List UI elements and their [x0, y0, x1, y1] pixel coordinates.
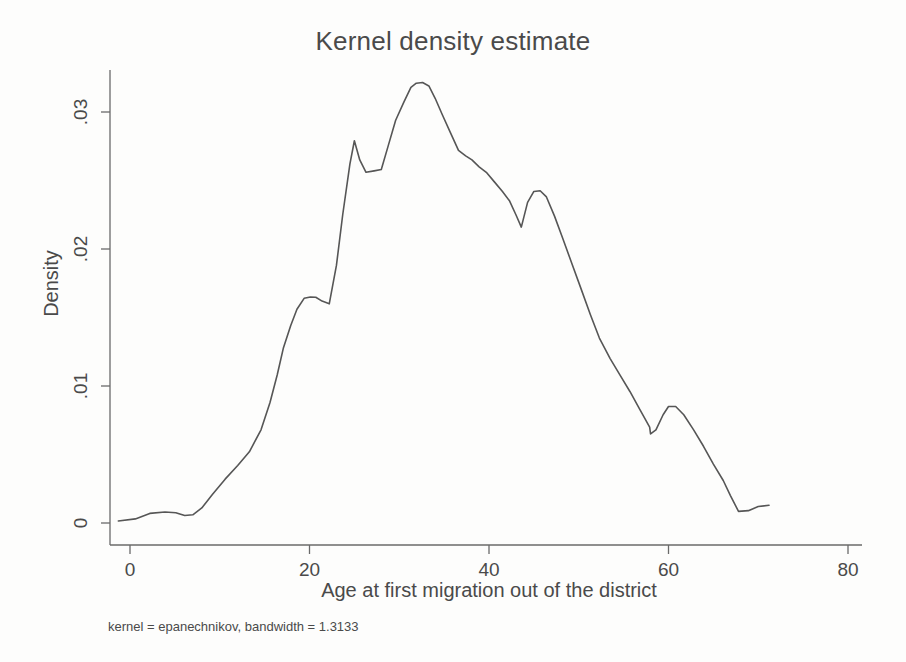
kernel-density-figure: Kernel density estimate Density 0.01.02.…	[0, 0, 906, 662]
y-tick-label: .02	[70, 236, 91, 262]
x-tick-group: 020406080	[125, 545, 859, 580]
x-tick-label: 80	[837, 559, 858, 580]
y-tick-label: 0	[70, 518, 91, 529]
x-tick-label: 40	[478, 559, 499, 580]
y-tick-label: .03	[70, 99, 91, 125]
y-tick-label: .01	[70, 373, 91, 399]
plot-area: 0.01.02.03 020406080	[0, 0, 906, 662]
x-tick-label: 0	[125, 559, 136, 580]
x-tick-label: 20	[299, 559, 320, 580]
x-axis-label: Age at first migration out of the distri…	[130, 579, 848, 602]
density-curve	[118, 83, 769, 521]
kernel-note: kernel = epanechnikov, bandwidth = 1.313…	[108, 619, 359, 634]
x-tick-label: 60	[658, 559, 679, 580]
y-tick-group: 0.01.02.03	[70, 99, 110, 529]
axes-group	[110, 70, 862, 545]
